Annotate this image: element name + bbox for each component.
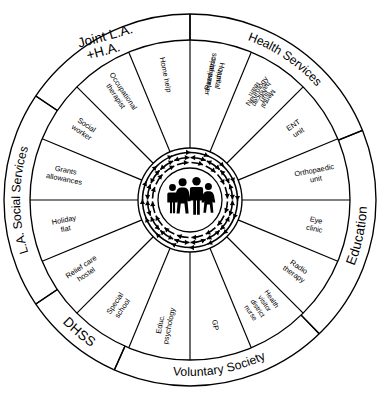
inner-sector-divider bbox=[238, 139, 338, 180]
outer-segment-dhss[interactable]: DHSS bbox=[60, 314, 98, 349]
outer-segment-label-text: L.A. Social Services bbox=[9, 144, 31, 255]
arrow-head-icon bbox=[185, 240, 190, 245]
inner-sector-label-line: clinic bbox=[305, 223, 323, 235]
inner-sector-holiday-flat[interactable]: Holidayflat bbox=[51, 213, 79, 235]
arrow-head-icon bbox=[186, 150, 191, 155]
arrow-head-icon bbox=[145, 201, 150, 206]
arrow-head-icon bbox=[150, 201, 155, 206]
inner-sector-label-line: Home help bbox=[158, 56, 174, 93]
outer-segment-education[interactable]: Education bbox=[343, 206, 370, 267]
inner-sector-grants-allowances[interactable]: Grantsallowances bbox=[45, 162, 85, 187]
inner-sector-educ-psychology[interactable]: Educ.psychology bbox=[152, 305, 177, 345]
inner-sector-label-line: unit bbox=[309, 173, 322, 184]
inner-sector-hospital-social-worker[interactable]: Hospitalsocial worker bbox=[202, 52, 228, 98]
outer-segment-label-text: Education bbox=[343, 206, 370, 267]
inner-sector-orthopaedic-unit[interactable]: Orthopaedicunit bbox=[294, 162, 337, 187]
arrow-head-icon bbox=[185, 155, 190, 160]
inner-sector-ent-unit[interactable]: ENTunit bbox=[285, 117, 308, 140]
wheel-svg-canvas: PaediatricunitNeurologyunitENTunitOrthop… bbox=[0, 0, 381, 398]
inner-sector-health-visitor-district-nurse[interactable]: Healthvisitordistrictnurse bbox=[243, 288, 281, 323]
outer-ring-divider bbox=[301, 315, 319, 334]
inner-sector-gp[interactable]: GP bbox=[210, 319, 221, 331]
inner-sector-divider bbox=[210, 248, 251, 348]
outer-ring-divider bbox=[114, 346, 125, 370]
arrow-head-icon bbox=[191, 240, 196, 245]
arrow-head-icon bbox=[225, 194, 230, 199]
inner-sector-home-help[interactable]: Home help bbox=[158, 56, 174, 93]
inner-sector-radio-therapy[interactable]: Radiotherapy bbox=[281, 256, 312, 285]
arrow-head-icon bbox=[230, 195, 235, 200]
arrow-head-icon bbox=[230, 201, 235, 206]
inner-sector-relief-care-hostel[interactable]: Relief carehostel bbox=[64, 253, 103, 288]
inner-sector-label-line: GP bbox=[210, 319, 221, 331]
inner-sector-special-school[interactable]: Specialschool bbox=[104, 290, 133, 320]
arrow-head-icon bbox=[184, 160, 189, 165]
outer-ring-divider bbox=[36, 96, 58, 111]
arrow-head-icon bbox=[191, 235, 196, 240]
services-wheel-diagram: PaediatricunitNeurologyunitENTunitOrthop… bbox=[0, 0, 381, 398]
inner-sector-eye-clinic[interactable]: Eyeclinic bbox=[305, 214, 325, 235]
inner-sector-label-line: flat bbox=[60, 223, 71, 234]
arrow-head-icon bbox=[145, 195, 150, 200]
arrow-head-icon bbox=[191, 155, 196, 160]
inner-sector-occupational-therapist[interactable]: Occupationaltherapist bbox=[100, 71, 139, 117]
outer-segment-joint-la-ha[interactable]: Joint L.A.+H.A. bbox=[76, 21, 138, 64]
outer-ring-divider bbox=[36, 289, 58, 304]
outer-segment-la-social-services[interactable]: L.A. Social Services bbox=[9, 144, 31, 255]
outer-segment-label-text: DHSS bbox=[60, 314, 98, 349]
inner-sector-social-worker[interactable]: Socialworker bbox=[69, 114, 99, 142]
outer-ring-divider bbox=[338, 130, 362, 140]
